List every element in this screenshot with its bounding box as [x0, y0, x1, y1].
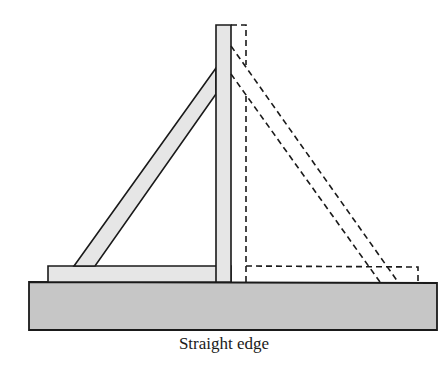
flipped-foot: [246, 266, 418, 282]
diagonal-brace: [74, 68, 216, 266]
horizontal-foot: [48, 266, 231, 282]
vertical-post: [216, 25, 231, 282]
straight-edge-base: [29, 282, 437, 330]
figure-caption: Straight edge: [0, 334, 448, 354]
square-check-diagram: [0, 0, 448, 373]
flipped-brace: [231, 46, 398, 282]
